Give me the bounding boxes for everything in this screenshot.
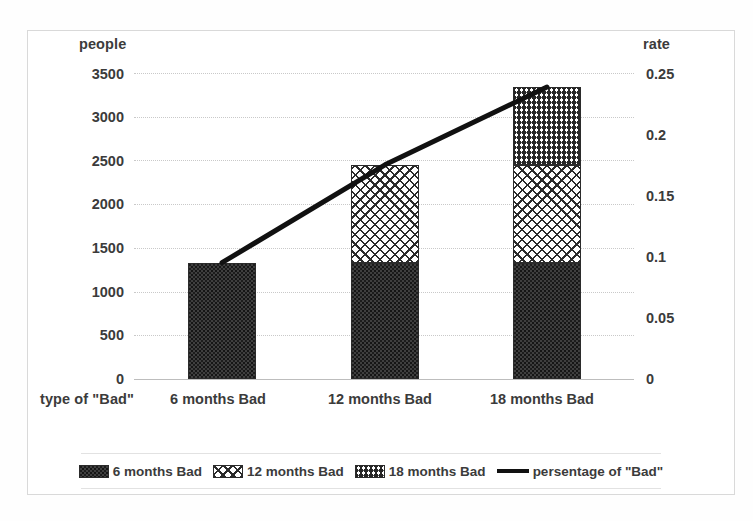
ytick-left-3000: 3000 xyxy=(38,109,124,125)
legend-label-6months: 6 months Bad xyxy=(113,464,202,479)
y-axis-right-title: rate xyxy=(643,36,670,52)
ytick-left-3500: 3500 xyxy=(38,66,124,82)
ytick-left-500: 500 xyxy=(38,327,124,343)
y-axis-left-title: people xyxy=(79,36,126,52)
legend-item-12months[interactable]: 12 months Bad xyxy=(213,464,344,479)
swatch-dark-dotted-icon xyxy=(79,465,109,478)
ytick-right-0: 0 xyxy=(646,371,716,387)
line-series-persentage-of-bad[interactable] xyxy=(134,73,634,379)
chart-legend: 6 months Bad 12 months Bad 18 months Bad… xyxy=(81,453,661,489)
chart-screenshot: people rate type of "Bad" 3500 3000 2500… xyxy=(0,0,753,521)
category-label-1: 6 months Bad xyxy=(158,391,278,407)
legend-item-18months[interactable]: 18 months Bad xyxy=(355,464,486,479)
line-black-icon xyxy=(497,469,529,473)
ytick-left-2000: 2000 xyxy=(38,196,124,212)
ytick-left-1500: 1500 xyxy=(38,240,124,256)
x-axis-title: type of "Bad" xyxy=(40,391,134,407)
legend-item-6months[interactable]: 6 months Bad xyxy=(79,464,202,479)
ytick-left-1000: 1000 xyxy=(38,284,124,300)
legend-label-18months: 18 months Bad xyxy=(389,464,486,479)
ytick-right-025: 0.25 xyxy=(646,66,716,82)
ytick-right-005: 0.05 xyxy=(646,310,716,326)
ytick-left-2500: 2500 xyxy=(38,153,124,169)
line-path xyxy=(222,87,547,263)
x-axis-baseline xyxy=(134,379,634,380)
swatch-diagonal-hatch-icon xyxy=(213,465,243,478)
plot-area xyxy=(134,73,634,379)
ytick-right-01: 0.1 xyxy=(646,249,716,265)
legend-label-12months: 12 months Bad xyxy=(247,464,344,479)
ytick-right-015: 0.15 xyxy=(646,188,716,204)
legend-label-persentage: persentage of "Bad" xyxy=(533,464,664,479)
chart-frame: people rate type of "Bad" 3500 3000 2500… xyxy=(27,30,735,495)
category-label-2: 12 months Bad xyxy=(320,391,440,407)
category-label-3: 18 months Bad xyxy=(482,391,602,407)
legend-item-persentage[interactable]: persentage of "Bad" xyxy=(497,464,664,479)
ytick-right-02: 0.2 xyxy=(646,127,716,143)
ytick-left-0: 0 xyxy=(38,371,124,387)
swatch-speckle-icon xyxy=(355,465,385,478)
